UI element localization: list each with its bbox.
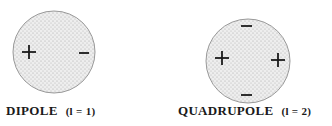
dipole-order: (l = 1) [66,105,96,117]
dipole-caption: DIPOLE(l = 1) [6,103,95,119]
quadrupole-caption: QUADRUPOLE(l = 2) [178,103,311,119]
dipole-label: DIPOLE [6,103,58,118]
dipole-sphere [13,11,95,93]
quadrupole-order: (l = 2) [281,105,311,117]
quadrupole-label: QUADRUPOLE [178,103,273,118]
quadrupole-sphere [206,19,290,103]
